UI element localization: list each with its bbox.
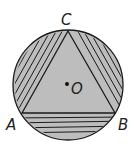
label-a: A <box>5 116 16 134</box>
circle-triangle-diagram: C O A B <box>0 0 135 153</box>
label-b: B <box>118 116 128 134</box>
center-point-icon <box>65 82 69 86</box>
label-c: C <box>61 11 72 29</box>
label-o: O <box>71 80 83 98</box>
